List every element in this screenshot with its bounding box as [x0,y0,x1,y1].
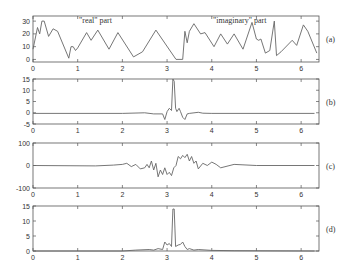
y-tick-label: 30 [22,18,30,25]
x-tick-label: 6 [299,191,303,198]
x-tick-label: 0 [31,127,35,134]
x-tick-label: 2 [120,127,124,134]
panel-a: 01234560102030(a)"real" part"imaginary" … [22,16,335,72]
x-tick-label: 3 [165,254,169,261]
x-tick-label: 5 [254,254,258,261]
x-tick-label: 1 [76,254,80,261]
figure: 01234560102030(a)"real" part"imaginary" … [0,0,348,271]
x-tick-label: 0 [31,254,35,261]
y-tick-label: 100 [18,140,30,147]
x-tick-label: 4 [210,65,214,72]
panel-d: 0123456051015(d) [22,203,335,262]
y-tick-label: 10 [22,87,30,94]
x-tick-label: 4 [210,254,214,261]
y-tick-label: 10 [22,218,30,225]
panel-label: (a) [326,35,335,44]
y-tick-label: 5 [26,98,30,105]
x-tick-label: 1 [76,127,80,134]
x-tick-label: 2 [120,65,124,72]
data-series [33,209,315,251]
x-tick-label: 6 [299,127,303,134]
y-tick-label: 0 [26,56,30,63]
x-tick-label: 2 [120,191,124,198]
x-tick-label: 0 [31,191,35,198]
y-tick-label: 0 [26,162,30,169]
x-tick-label: 5 [254,191,258,198]
x-tick-label: 4 [210,127,214,134]
x-tick-label: 4 [210,191,214,198]
x-tick-label: 3 [165,191,169,198]
x-tick-label: 0 [31,65,35,72]
y-tick-label: 0 [26,109,30,116]
axes-box [33,79,319,124]
x-tick-label: 6 [299,65,303,72]
x-tick-label: 5 [254,65,258,72]
x-tick-label: 5 [254,127,258,134]
x-tick-label: 1 [76,191,80,198]
y-tick-label: 20 [22,30,30,37]
real-part-annotation: "real" part [79,16,113,25]
panel-b: 0123456-5051015(b) [22,76,335,135]
data-series [33,21,317,59]
data-series [33,154,315,177]
data-series [33,79,315,120]
y-tick-label: -100 [16,185,30,192]
y-tick-label: 10 [22,43,30,50]
panel-c: 0123456-1000100(c) [16,140,335,199]
y-tick-label: -5 [24,121,30,128]
y-tick-label: 15 [22,203,30,210]
x-tick-label: 2 [120,254,124,261]
x-tick-label: 3 [165,127,169,134]
y-tick-label: 0 [26,248,30,255]
panel-label: (c) [326,162,335,171]
x-tick-label: 3 [165,65,169,72]
axes-box [33,206,319,251]
x-tick-label: 6 [299,254,303,261]
y-tick-label: 15 [22,76,30,83]
y-tick-label: 5 [26,233,30,240]
imaginary-part-annotation: "imaginary" part [213,16,267,25]
panel-label: (d) [326,225,336,234]
x-tick-label: 1 [76,65,80,72]
panel-label: (b) [326,98,336,107]
